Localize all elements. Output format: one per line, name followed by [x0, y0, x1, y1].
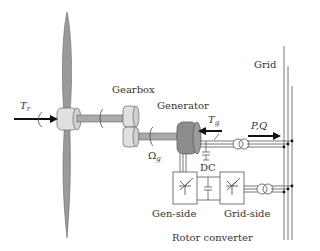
grid-label: Grid	[254, 59, 276, 70]
rotor-transformer	[257, 184, 267, 194]
dc-link	[197, 177, 220, 200]
gen-side-label: Gen-side	[152, 208, 196, 219]
rotor-converter-label: Rotor converter	[172, 232, 253, 243]
high-speed-shaft	[139, 133, 177, 140]
power-flow-arrow	[273, 132, 281, 140]
gearbox-label: Gearbox	[112, 84, 155, 95]
stator-transformer	[233, 139, 243, 149]
rotor-torque-label: Tr	[20, 100, 30, 113]
gen-speed-label: Ωg	[148, 150, 161, 163]
dc-label: DC	[200, 162, 216, 173]
low-speed-shaft	[77, 115, 125, 122]
grid-side-label: Grid-side	[224, 208, 270, 219]
gen-torque-label: Tg	[208, 114, 219, 127]
generator-label: Generator	[157, 100, 209, 111]
power-label: P,Q	[251, 120, 267, 131]
